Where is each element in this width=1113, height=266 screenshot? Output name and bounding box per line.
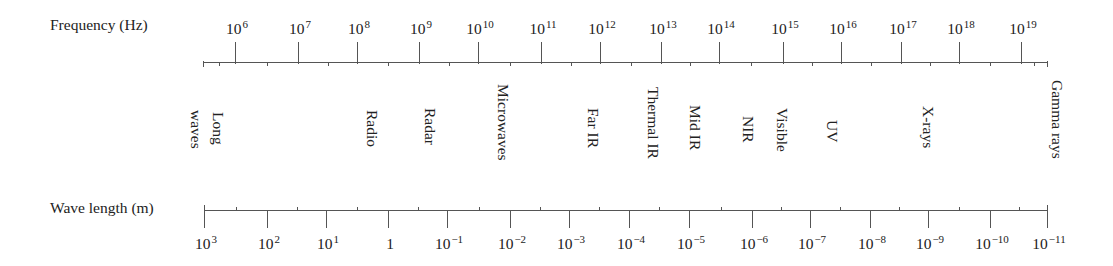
- wavelength-axis-minor-tick: [659, 207, 660, 211]
- wavelength-axis-tick-label: 10−5: [677, 236, 705, 252]
- wavelength-axis-line: [204, 210, 1047, 211]
- wavelength-axis-major-tick: [990, 210, 991, 228]
- wavelength-axis-tick-label: 10−11: [1032, 236, 1065, 252]
- wavelength-axis-minor-tick: [899, 207, 900, 211]
- frequency-axis-minor-tick: [219, 62, 220, 66]
- frequency-axis-tick-label: 108: [348, 21, 370, 37]
- wavelength-axis-major-tick: [388, 210, 389, 228]
- frequency-axis-tick-label: 1015: [771, 21, 799, 37]
- band-label: Gamma rays: [1050, 80, 1066, 159]
- frequency-axis-major-tick: [419, 42, 420, 64]
- wavelength-axis-major-tick: [928, 210, 929, 228]
- frequency-axis-major-tick: [298, 42, 299, 64]
- band-label: NIR: [741, 116, 757, 143]
- frequency-axis-tick-label: 1016: [829, 21, 857, 37]
- frequency-axis-tick-label: 1010: [466, 21, 494, 37]
- frequency-axis-minor-tick: [990, 62, 991, 66]
- frequency-axis-end-tick: [1047, 61, 1048, 67]
- band-label: Mid IR: [688, 105, 704, 150]
- frequency-axis-major-tick: [959, 42, 960, 64]
- wavelength-axis-tick-label: 101: [317, 236, 339, 252]
- frequency-axis-tick-label: 1011: [529, 21, 556, 37]
- wavelength-axis-title: Wave length (m): [50, 199, 154, 217]
- band-label: Radio: [365, 110, 381, 147]
- frequency-axis-title: Frequency (Hz): [50, 16, 148, 34]
- wavelength-axis-major-tick: [447, 210, 448, 228]
- wavelength-axis-minor-tick: [479, 207, 480, 211]
- wavelength-axis-minor-tick: [781, 207, 782, 211]
- frequency-axis-major-tick: [901, 42, 902, 64]
- frequency-axis-end-tick: [203, 61, 204, 67]
- frequency-axis-minor-tick: [388, 62, 389, 66]
- frequency-axis-minor-tick: [930, 62, 931, 66]
- band-label: X-rays: [921, 106, 937, 148]
- wavelength-axis-minor-tick: [297, 207, 298, 211]
- frequency-axis-tick-label: 109: [410, 21, 432, 37]
- frequency-axis-line: [203, 62, 1047, 63]
- wavelength-axis-tick-label: 10−7: [798, 236, 826, 252]
- frequency-axis-minor-tick: [571, 62, 572, 66]
- frequency-axis-major-tick: [719, 42, 720, 64]
- wavelength-axis-major-tick: [629, 210, 630, 228]
- wavelength-axis-minor-tick: [959, 207, 960, 211]
- wavelength-axis-major-tick: [510, 210, 511, 228]
- frequency-axis-tick-label: 1013: [649, 21, 677, 37]
- wavelength-axis-tick-label: 1: [386, 236, 394, 252]
- wavelength-axis-minor-tick: [236, 207, 237, 211]
- band-label: UV: [825, 120, 841, 142]
- wavelength-axis-minor-tick: [1019, 207, 1020, 211]
- wavelength-axis-minor-tick: [599, 207, 600, 211]
- frequency-axis-minor-tick: [328, 62, 329, 66]
- band-label: Far IR: [586, 108, 602, 148]
- band-label: Thermal IR: [646, 87, 662, 159]
- frequency-axis-major-tick: [357, 42, 358, 64]
- wavelength-axis-tick-label: 10−6: [740, 236, 768, 252]
- frequency-axis-major-tick: [478, 42, 479, 64]
- wavelength-axis-tick-label: 10−4: [617, 236, 645, 252]
- frequency-axis-tick-label: 106: [226, 21, 248, 37]
- frequency-axis-major-tick: [1021, 42, 1022, 64]
- frequency-axis-minor-tick: [631, 62, 632, 66]
- band-label: Visible: [775, 108, 791, 152]
- band-label: waves: [189, 110, 205, 149]
- frequency-axis-major-tick: [541, 42, 542, 64]
- band-label: Long: [211, 112, 227, 145]
- frequency-axis-major-tick: [235, 42, 236, 64]
- wavelength-axis-tick-label: 103: [195, 236, 217, 252]
- frequency-axis-major-tick: [600, 42, 601, 64]
- frequency-axis-tick-label: 1018: [947, 21, 975, 37]
- frequency-axis-minor-tick: [267, 62, 268, 66]
- wavelength-axis-major-tick: [267, 210, 268, 228]
- frequency-axis-minor-tick: [751, 62, 752, 66]
- frequency-axis-tick-label: 1017: [889, 21, 917, 37]
- frequency-axis-major-tick: [783, 42, 784, 64]
- frequency-axis-minor-tick: [690, 62, 691, 66]
- wavelength-axis-minor-tick: [540, 207, 541, 211]
- wavelength-axis-tick-label: 102: [258, 236, 280, 252]
- wavelength-axis-minor-tick: [357, 207, 358, 211]
- wavelength-axis-tick-label: 10−1: [435, 236, 463, 252]
- frequency-axis-major-tick: [841, 42, 842, 64]
- frequency-axis-tick-label: 107: [289, 21, 311, 37]
- wavelength-axis-tick-label: 10−3: [557, 236, 585, 252]
- band-label: Radar: [423, 108, 439, 145]
- frequency-axis-major-tick: [661, 42, 662, 64]
- frequency-axis-minor-tick: [1034, 62, 1035, 66]
- wavelength-axis-major-tick: [689, 210, 690, 228]
- frequency-axis-tick-label: 1014: [707, 21, 735, 37]
- wavelength-axis-major-tick: [326, 210, 327, 228]
- wavelength-axis-tick-label: 10−8: [858, 236, 886, 252]
- frequency-axis-minor-tick: [812, 62, 813, 66]
- wavelength-axis-tick-label: 10−2: [498, 236, 526, 252]
- frequency-axis-minor-tick: [510, 62, 511, 66]
- frequency-axis-minor-tick: [449, 62, 450, 66]
- wavelength-axis-major-tick: [569, 210, 570, 228]
- wavelength-axis-major-tick: [870, 210, 871, 228]
- frequency-axis-minor-tick: [871, 62, 872, 66]
- frequency-axis-tick-label: 1019: [1009, 21, 1037, 37]
- wavelength-axis-minor-tick: [721, 207, 722, 211]
- wavelength-axis-major-tick: [204, 210, 205, 228]
- wavelength-axis-tick-label: 10−10: [975, 236, 1009, 252]
- wavelength-axis-minor-tick: [418, 207, 419, 211]
- wavelength-axis-major-tick: [752, 210, 753, 228]
